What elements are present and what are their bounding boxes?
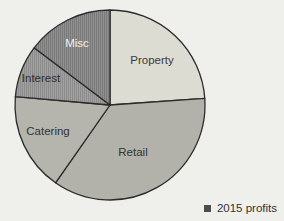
legend-label: 2015 profits bbox=[217, 202, 277, 214]
slice-label-interest: Interest bbox=[22, 72, 61, 84]
slice-label-catering: Catering bbox=[26, 125, 69, 137]
slice-label-retail: Retail bbox=[118, 146, 147, 158]
pie-chart: PropertyRetailCateringInterestMisc bbox=[0, 0, 284, 221]
chart-canvas: PropertyRetailCateringInterestMisc 2015 … bbox=[0, 0, 284, 221]
legend-swatch bbox=[204, 205, 211, 212]
legend: 2015 profits bbox=[204, 202, 277, 214]
slice-label-misc: Misc bbox=[65, 37, 89, 49]
slice-label-property: Property bbox=[130, 54, 174, 66]
